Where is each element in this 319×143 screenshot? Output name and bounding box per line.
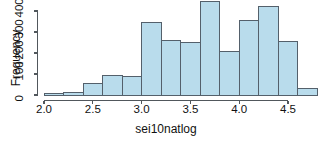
x-tick-label: 3.0: [134, 104, 150, 116]
x-tick-label: 4.0: [231, 104, 247, 116]
histogram-bar: [239, 20, 259, 95]
x-tick-label: 3.5: [182, 104, 198, 116]
x-axis-title: sei10natlog: [135, 123, 196, 135]
x-tick-label: 2.5: [85, 104, 101, 116]
histogram-bar: [103, 75, 123, 95]
histogram-bar: [220, 52, 240, 95]
histogram-bar: [122, 76, 142, 95]
histogram-figure: 2.02.53.03.54.04.50100200300400 sei10nat…: [0, 0, 319, 143]
y-tick-label: 400: [14, 5, 26, 18]
histogram-bar: [200, 2, 220, 95]
histogram-bar: [44, 94, 64, 95]
histogram-bar: [161, 40, 181, 95]
y-tick-label-wrap: 400: [7, 4, 33, 18]
histogram-bar: [181, 43, 201, 96]
x-tick-label: 4.5: [280, 104, 296, 116]
histogram-bar: [83, 83, 103, 95]
histogram-bar: [142, 23, 162, 95]
histogram-bar: [64, 93, 84, 95]
histogram-bar: [298, 89, 318, 95]
histogram-bar: [259, 7, 279, 95]
x-tick-label: 2.0: [36, 104, 52, 116]
histogram-bar: [278, 41, 298, 95]
y-axis-title: Frequency: [10, 18, 22, 98]
